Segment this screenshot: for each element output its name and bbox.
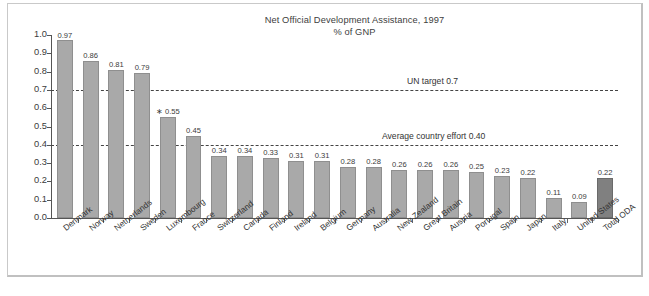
y-axis-tick-mark <box>47 108 52 109</box>
bar <box>546 198 562 218</box>
y-axis-tick: 0.1 <box>0 200 58 201</box>
y-axis-tick-mark <box>47 181 52 182</box>
y-axis-tick: 0.9 <box>0 53 58 54</box>
y-axis-tick-mark <box>47 200 52 201</box>
y-axis-tick-label: 0.2 <box>7 175 47 185</box>
footnote-marker: ∗ <box>156 107 165 116</box>
y-axis-tick-mark <box>47 163 52 164</box>
y-axis-tick-label: 0.4 <box>7 139 47 149</box>
y-axis-tick-label: 0.3 <box>7 157 47 167</box>
plot-area: 1.00.90.80.70.60.50.40.30.20.10.0 UN tar… <box>52 35 618 218</box>
bar <box>211 156 227 218</box>
bar-value-label: 0.86 <box>73 51 109 60</box>
y-axis-tick-label: 0.6 <box>7 102 47 112</box>
y-axis-tick-label: 0.1 <box>7 194 47 204</box>
bar <box>57 40 73 218</box>
y-axis-tick-label: 0.9 <box>7 47 47 57</box>
y-axis-tick: 0.5 <box>0 127 58 128</box>
bar-value-label: 0.79 <box>124 63 160 72</box>
bar <box>469 172 485 218</box>
y-axis-tick-label: 0.7 <box>7 84 47 94</box>
y-axis-tick-mark <box>47 72 52 73</box>
y-axis-tick-label: 0.8 <box>7 66 47 76</box>
y-axis-tick: 0.8 <box>0 72 58 73</box>
y-axis-tick: 0.0 <box>0 218 58 219</box>
y-axis-tick: 0.6 <box>0 108 58 109</box>
y-axis-tick-mark <box>47 53 52 54</box>
y-axis-tick-label: 1.0 <box>7 29 47 39</box>
bar <box>314 161 330 218</box>
y-axis-tick: 0.7 <box>0 90 58 91</box>
y-axis-tick: 0.4 <box>0 145 58 146</box>
bar-value-label: 0.45 <box>176 126 212 135</box>
reference-line-label: Average country effort 0.40 <box>382 131 485 141</box>
bar-value-label: 0.22 <box>587 168 623 177</box>
y-axis-tick-mark <box>47 127 52 128</box>
y-axis-tick: 0.2 <box>0 181 58 182</box>
y-axis-tick-mark <box>47 218 52 219</box>
chart-title: Net Official Development Assistance, 199… <box>0 14 649 26</box>
bar-value-label: ∗ 0.55 <box>150 107 186 116</box>
y-axis-tick: 0.3 <box>0 163 58 164</box>
bar <box>160 117 176 218</box>
bar-value-label: 0.09 <box>562 192 598 201</box>
y-axis-tick-label: 0.0 <box>7 212 47 222</box>
bar <box>108 70 124 218</box>
reference-line-label: UN target 0.7 <box>407 76 458 86</box>
bar-value-label: 0.97 <box>47 31 83 40</box>
bar <box>288 161 304 218</box>
bar <box>83 61 99 218</box>
bar <box>520 178 536 218</box>
chart-figure: Net Official Development Assistance, 199… <box>0 0 649 296</box>
bar-value-label: 0.22 <box>510 168 546 177</box>
y-axis-tick-label: 0.5 <box>7 121 47 131</box>
